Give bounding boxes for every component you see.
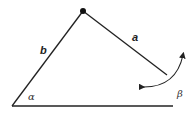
apex-pivot-dot [80, 8, 86, 14]
diagram-canvas: b a α β [0, 0, 194, 115]
label-angle-beta: β [176, 88, 183, 99]
label-side-a: a [132, 31, 138, 43]
side-a-line [83, 11, 167, 75]
side-b-line [12, 11, 83, 106]
label-side-b: b [40, 44, 47, 56]
label-angle-alpha: α [28, 91, 35, 102]
